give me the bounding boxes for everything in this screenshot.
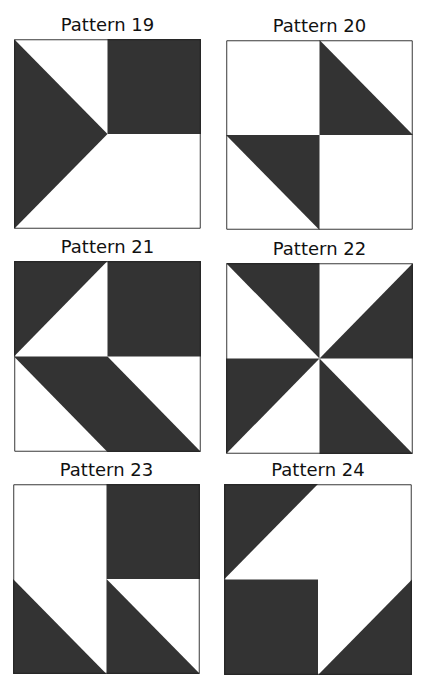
pattern-block [226, 40, 413, 230]
pattern-shape [107, 484, 201, 579]
pattern-shape [224, 580, 318, 676]
pattern-block [14, 39, 201, 229]
pattern-title: Pattern 20 [226, 16, 413, 36]
pattern-title: Pattern 19 [14, 15, 201, 35]
pattern-block [226, 263, 413, 454]
pattern-title: Pattern 22 [226, 239, 413, 259]
cropped-heading-fragment [0, 0, 421, 4]
pattern-shape [108, 39, 202, 134]
pattern-block [13, 484, 200, 674]
pattern-block [224, 484, 412, 675]
pattern-title: Pattern 23 [13, 460, 200, 480]
pattern-title: Pattern 24 [224, 460, 412, 480]
pattern-block [14, 261, 201, 452]
pattern-title: Pattern 21 [14, 237, 201, 257]
pattern-shape [108, 261, 202, 357]
